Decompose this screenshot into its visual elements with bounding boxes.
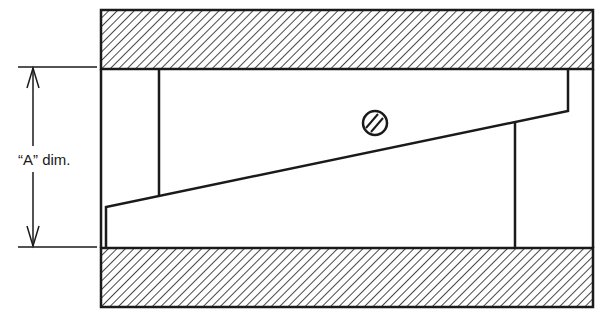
dimension-label: “A” dim.: [18, 151, 71, 168]
bottom-plate: [101, 248, 593, 307]
tapered-wedge: [106, 69, 568, 248]
top-plate: [101, 10, 593, 69]
slotted-screw-icon: [363, 111, 387, 135]
diagram-canvas: “A” dim.: [0, 0, 603, 314]
